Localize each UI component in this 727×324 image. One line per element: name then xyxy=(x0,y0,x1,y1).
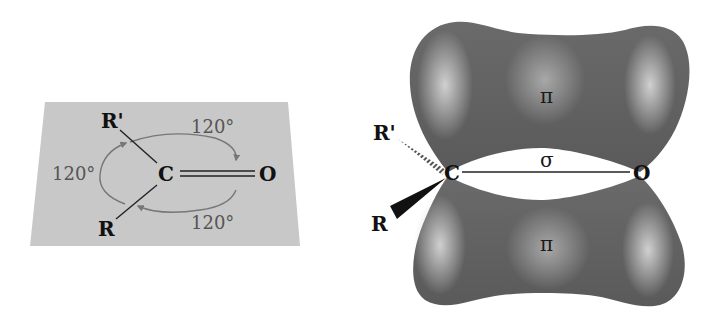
pi-label-bottom: π xyxy=(540,232,553,256)
r-label: R xyxy=(98,217,115,241)
angle-label-left: 120° xyxy=(52,163,95,184)
r-label-3d: R xyxy=(371,212,388,236)
carbon-label: C xyxy=(158,162,174,186)
carbonyl-diagram: R' C O R 120° 120° 120° R' C O xyxy=(0,0,727,324)
orbital-panel: R' C O R π σ π xyxy=(371,22,689,307)
sigma-label: σ xyxy=(540,148,554,172)
angle-label-bottom: 120° xyxy=(191,212,234,233)
carbon-label-3d: C xyxy=(444,161,460,185)
angle-label-top: 120° xyxy=(191,116,234,137)
oxygen-label: O xyxy=(259,162,276,186)
pi-label-top: π xyxy=(540,84,553,108)
r-prime-label: R' xyxy=(101,109,124,133)
trigonal-planar-panel: R' C O R 120° 120° 120° xyxy=(30,102,300,246)
oxygen-label-3d: O xyxy=(633,161,650,185)
r-prime-label-3d: R' xyxy=(373,121,396,145)
